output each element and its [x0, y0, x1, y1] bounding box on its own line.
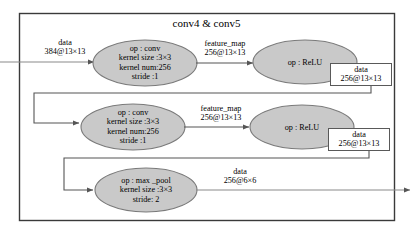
node-maxpool5-line1: op : max _pool [96, 176, 196, 185]
edge-conv4-to-relu4-label: feature_map 256@13×13 [188, 39, 262, 57]
edge-maxpool5-output-line1: data [200, 167, 280, 176]
edge-conv5-to-relu5-label: feature_map 256@13×13 [184, 104, 258, 122]
diagram-title: conv4 & conv5 [19, 17, 394, 29]
node-maxpool5-line2: kernel size :3×3 [96, 185, 196, 194]
edge-maxpool5-output-label: data 256@6×6 [200, 167, 280, 185]
edge-conv4-to-relu4-line2: 256@13×13 [188, 48, 262, 57]
edge-relu4-to-conv5-line2: 256@13×13 [334, 74, 388, 83]
edge-relu4-to-conv5-line1: data [334, 65, 388, 74]
edge-relu4-to-conv5-label: data 256@13×13 [330, 63, 392, 86]
node-conv5[interactable]: op : conv kernel size :3×3 kernel num:25… [83, 108, 183, 146]
edge-relu5-to-maxpool5-line2: 256@13×13 [332, 139, 386, 148]
node-conv4-line1: op : conv [95, 44, 195, 53]
node-conv5-line1: op : conv [83, 108, 183, 117]
node-maxpool5[interactable]: op : max _pool kernel size :3×3 stride: … [96, 176, 196, 204]
edge-relu5-to-maxpool5-label: data 256@13×13 [328, 128, 390, 151]
diagram-canvas: conv4 & conv5 data 384@13×13 op : conv k… [0, 0, 415, 234]
node-conv5-line3: kernel num:256 [83, 127, 183, 136]
node-maxpool5-line3: stride: 2 [96, 195, 196, 204]
node-conv4[interactable]: op : conv kernel size :3×3 kernel num:25… [95, 44, 195, 82]
node-conv4-line2: kernel size :3×3 [95, 53, 195, 62]
edge-maxpool5-output-line2: 256@6×6 [200, 176, 280, 185]
edge-conv5-to-relu5-line2: 256@13×13 [184, 113, 258, 122]
edge-conv4-to-relu4-line1: feature_map [188, 39, 262, 48]
edge-conv5-to-relu5-line1: feature_map [184, 104, 258, 113]
node-conv5-line4: stride :1 [83, 136, 183, 145]
node-conv4-line3: kernel num:256 [95, 63, 195, 72]
edge-relu5-to-maxpool5-line1: data [332, 130, 386, 139]
node-conv5-line2: kernel size :3×3 [83, 117, 183, 126]
node-conv4-line4: stride :1 [95, 72, 195, 81]
